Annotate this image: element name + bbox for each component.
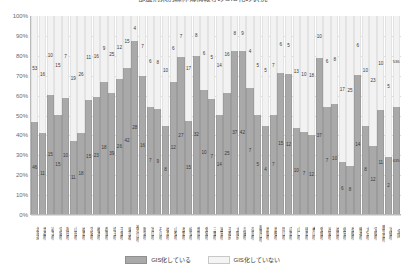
bar-column[interactable]: 1625 [223,16,230,214]
bar-column[interactable]: 52 [385,16,392,214]
bar-column[interactable]: 258 [346,16,353,214]
bar-column[interactable]: 2312 [369,16,376,214]
y-axis-tick: 30% [2,152,28,158]
bar-column[interactable]: 428 [131,16,138,214]
bar-segment-gis-yes [170,82,177,214]
bar-column[interactable]: 1115 [85,16,92,214]
bar-segment-gis-yes [77,133,84,214]
bar-segment-gis-yes [185,121,192,214]
bar-column[interactable]: 2618 [77,16,84,214]
x-axis-label: 新潟県 [139,217,147,249]
bar-column[interactable]: 89 [154,16,161,214]
bar-column[interactable]: 615 [277,16,284,214]
bar-segment-gis-yes [85,100,92,214]
chart-legend: GIS化している GIS化していない [0,253,405,267]
x-axis-label: 福岡県 [331,217,339,249]
x-axis-label: 石川県 [154,217,162,249]
bar-column[interactable]: 1414 [216,16,223,214]
bar-segment-gis-no [31,16,38,122]
bar-segment-gis-no [316,16,323,58]
bar-column[interactable]: 108 [162,16,169,214]
bar-segment-gis-yes [100,82,107,214]
bar-column[interactable]: 1911 [70,16,77,214]
bar-column[interactable]: 942 [239,16,246,214]
bar-column[interactable]: 1037 [316,16,323,214]
bar-column[interactable]: 1310 [293,16,300,214]
bar-segment-gis-yes [31,122,38,214]
bar-column[interactable]: 612 [170,16,177,214]
bar-segment-gis-no [154,16,161,109]
bar-column[interactable]: 614 [354,16,361,214]
y-axis-tick: 80% [2,53,28,59]
bar-column[interactable]: 610 [200,16,207,214]
bar-column[interactable]: 54 [262,16,269,214]
bar-column[interactable]: 1226 [116,16,123,214]
bar-column[interactable]: 918 [100,16,107,214]
x-axis-label: 宮崎県 [369,217,377,249]
x-axis-label: 佐賀県 [339,217,347,249]
bar-column[interactable]: 67 [323,16,330,214]
bar-column[interactable]: 5346 [31,16,38,214]
bar-segment-gis-no [285,16,292,74]
bar-segment-gis-yes [254,115,261,214]
x-axis-label: 宮城県 [54,217,62,249]
bar-segment-gis-yes [223,93,230,214]
bar-segment-gis-yes [323,107,330,214]
bar-segment-gis-no [100,16,107,82]
bar-column[interactable]: 1611 [39,16,46,214]
bar-segment-gis-yes [116,79,123,214]
chart-root: 都道府県別森林簿情報等のGIS化の状況 100%90%80%70%60%50%4… [0,0,405,275]
bar-column[interactable]: 47 [246,16,253,214]
bar-column[interactable]: 512 [285,16,292,214]
bar-segment-gis-no [270,16,277,115]
bar-column[interactable]: 832 [193,16,200,214]
y-axis-tick: 60% [2,93,28,99]
bar-segment-gis-no [62,16,69,98]
bar-segment-gis-no [216,16,223,115]
bar-segment-gis-yes [231,51,238,214]
bar-column[interactable]: 810 [331,16,338,214]
y-axis-tick: 10% [2,192,28,198]
y-axis-tick: 90% [2,33,28,39]
bar-column[interactable]: 837 [231,16,238,214]
legend-item-gis-no[interactable]: GIS化していない [208,256,280,264]
legend-item-gis-yes[interactable]: GIS化している [125,256,191,264]
bar-segment-gis-no [300,16,307,132]
bar-segment-gis-yes [70,141,77,214]
x-axis-label: 全国 [392,217,400,249]
y-axis-tick: 0% [2,212,28,218]
bar-column[interactable]: 1011 [377,16,384,214]
bar-column[interactable]: 727 [177,16,184,214]
bar-column[interactable]: 1623 [93,16,100,214]
bar-column[interactable]: 1015 [47,16,54,214]
bar-column[interactable]: 77 [270,16,277,214]
bar-column[interactable]: 57 [208,16,215,214]
bar-column[interactable]: 2539 [108,16,115,214]
bar-column[interactable]: 536635 [393,16,400,214]
x-axis-label: 沖縄県 [385,217,393,249]
bar-column[interactable]: 1812 [308,16,315,214]
x-axis-label: 北海道 [31,217,39,249]
bar-segment-gis-yes [308,135,315,214]
bar-segment-gis-yes [177,57,184,214]
bar-column[interactable]: 1715 [185,16,192,214]
bar-segment-gis-yes [346,166,353,214]
bar-column[interactable]: 1515 [54,16,61,214]
bar-column[interactable]: 716 [139,16,146,214]
bar-segment-gis-no [246,16,253,88]
bar-segment-gis-no [54,16,61,115]
bar-column[interactable]: 710 [62,16,69,214]
bar-column[interactable]: 1542 [123,16,130,214]
bar-column[interactable]: 107 [300,16,307,214]
bar-column[interactable]: 176 [339,16,346,214]
bar-column[interactable]: 67 [147,16,154,214]
bar-segment-gis-yes [270,115,277,214]
bar-column[interactable]: 55 [254,16,261,214]
gridline [31,215,401,216]
bar-segment-gis-no [131,16,138,41]
bar-segment-gis-yes [216,115,223,214]
x-axis-label: 長崎県 [346,217,354,249]
bar-segment-gis-yes [39,133,46,214]
bar-segment-gis-no [262,16,269,126]
bar-column[interactable]: 108 [362,16,369,214]
